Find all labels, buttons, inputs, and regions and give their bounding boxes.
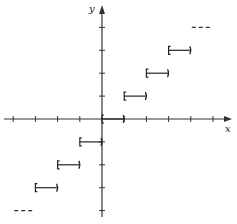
x-axis-arrow-icon — [224, 116, 232, 122]
step-segment — [169, 46, 191, 54]
y-axis-label: y — [88, 3, 95, 14]
step-segment — [58, 161, 80, 169]
axes — [4, 5, 232, 217]
step-segment — [80, 138, 102, 146]
y-axis-arrow-icon — [99, 5, 105, 14]
step-segment — [124, 92, 146, 100]
step-segment — [146, 69, 168, 77]
step-function-plot: x y — [0, 0, 237, 224]
x-axis-label: x — [225, 123, 231, 134]
step-segment — [35, 184, 57, 192]
step-segment — [102, 115, 124, 123]
